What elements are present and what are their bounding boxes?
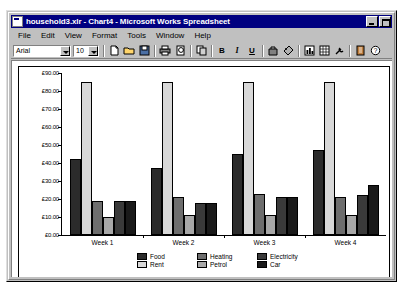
open-icon[interactable] (122, 44, 136, 58)
legend-entry-petrol[interactable]: Petrol (197, 261, 257, 268)
chevron-down-icon[interactable] (88, 46, 98, 56)
legend-entry-car[interactable]: Car (257, 261, 317, 268)
minimize-button[interactable] (366, 16, 378, 27)
bar-petrol[interactable] (184, 215, 195, 235)
print-preview-icon[interactable] (173, 44, 187, 58)
spreadsheet-icon[interactable] (317, 44, 331, 58)
y-axis-tick (58, 73, 61, 74)
bold-icon[interactable]: B (215, 44, 229, 58)
y-axis-tick-label: £20.00 (42, 196, 59, 202)
menu-bar: File Edit View Format Tools Window Help (11, 29, 392, 42)
save-icon[interactable] (137, 44, 151, 58)
toolbar-separator (154, 45, 156, 57)
y-axis-tick (58, 145, 61, 146)
maximize-button[interactable] (379, 16, 391, 27)
bar-rent[interactable] (81, 82, 92, 235)
x-axis-tick-label: Week 4 (335, 239, 357, 246)
menu-item-file[interactable]: File (13, 30, 36, 41)
bar-food[interactable] (70, 159, 81, 235)
menu-item-view[interactable]: View (60, 30, 87, 41)
menu-item-window[interactable]: Window (151, 30, 189, 41)
bar-rent[interactable] (243, 82, 254, 235)
legend-entry-rent[interactable]: Rent (137, 261, 197, 268)
bar-food[interactable] (313, 150, 324, 235)
y-axis-tick-label: £10.00 (42, 214, 59, 220)
bar-petrol[interactable] (265, 215, 276, 235)
legend-swatch (257, 261, 267, 268)
font-name-combobox[interactable]: Arial (13, 45, 71, 57)
insert-chart-icon[interactable] (302, 44, 316, 58)
menu-item-edit[interactable]: Edit (36, 30, 60, 41)
bar-heating[interactable] (335, 197, 346, 235)
chevron-down-icon[interactable] (60, 46, 70, 56)
window-title: household3.xlr - Chart4 - Microsoft Work… (26, 17, 365, 26)
bar-car[interactable] (287, 197, 298, 235)
legend-entry-electricity[interactable]: Electricity (257, 253, 317, 260)
bar-food[interactable] (232, 154, 243, 235)
application-window: household3.xlr - Chart4 - Microsoft Work… (6, 10, 397, 282)
underline-icon[interactable]: U (245, 44, 259, 58)
application-icon (12, 16, 23, 27)
bar-food[interactable] (151, 168, 162, 235)
chart-plot-wrapper: £90.00£80.00£70.00£60.00£50.00£40.00£30.… (19, 67, 389, 277)
bar-electricity[interactable] (195, 203, 206, 235)
legend-label: Electricity (270, 253, 298, 260)
bar-group (143, 73, 224, 235)
x-axis-tick (305, 235, 306, 238)
svg-text:?: ? (373, 47, 377, 54)
document-area[interactable]: £90.00£80.00£70.00£60.00£50.00£40.00£30.… (11, 60, 392, 277)
wrench-icon[interactable] (332, 44, 346, 58)
legend-label: Food (150, 253, 165, 260)
bar-heating[interactable] (173, 197, 184, 235)
legend-swatch (197, 253, 207, 260)
address-book-icon[interactable] (353, 44, 367, 58)
toolbar-separator (190, 45, 192, 57)
y-axis-tick-label: £30.00 (42, 178, 59, 184)
y-axis-tick (58, 217, 61, 218)
chart-type-icon[interactable] (266, 44, 280, 58)
bar-electricity[interactable] (357, 195, 368, 235)
chart-legend: FoodHeatingElectricityRentPetrolCar (137, 253, 317, 268)
italic-icon[interactable]: I (230, 44, 244, 58)
bar-petrol[interactable] (103, 217, 114, 235)
new-icon[interactable] (107, 44, 121, 58)
y-axis-tick-label: £80.00 (42, 88, 59, 94)
legend-entry-food[interactable]: Food (137, 253, 197, 260)
menu-item-format[interactable]: Format (87, 30, 122, 41)
legend-label: Petrol (210, 261, 227, 268)
y-axis-tick (58, 91, 61, 92)
menu-item-help[interactable]: Help (189, 30, 215, 41)
bar-rent[interactable] (324, 82, 335, 235)
bar-car[interactable] (125, 201, 136, 235)
y-axis-tick-label: £0.00 (45, 232, 59, 238)
bar-group (305, 73, 386, 235)
font-name-value: Arial (14, 47, 60, 54)
bar-petrol[interactable] (346, 215, 357, 235)
fill-color-icon[interactable] (281, 44, 295, 58)
bar-heating[interactable] (254, 194, 265, 235)
bar-electricity[interactable] (276, 197, 287, 235)
chart-object[interactable]: £90.00£80.00£70.00£60.00£50.00£40.00£30.… (18, 66, 390, 277)
bar-electricity[interactable] (114, 201, 125, 235)
bar-heating[interactable] (92, 201, 103, 235)
title-bar[interactable]: household3.xlr - Chart4 - Microsoft Work… (11, 15, 392, 28)
legend-entry-heating[interactable]: Heating (197, 253, 257, 260)
copy-icon[interactable] (194, 44, 208, 58)
bar-rent[interactable] (162, 82, 173, 235)
y-axis-tick (58, 163, 61, 164)
y-axis-tick-label: £90.00 (42, 70, 59, 76)
x-axis-tick (143, 235, 144, 238)
legend-row: RentPetrolCar (137, 261, 317, 268)
y-axis-tick-label: £70.00 (42, 106, 59, 112)
bar-car[interactable] (206, 203, 217, 235)
legend-label: Heating (210, 253, 232, 260)
bar-car[interactable] (368, 185, 379, 235)
print-icon[interactable] (158, 44, 172, 58)
toolbar-separator (298, 45, 300, 57)
toolbar-separator (103, 45, 105, 57)
help-icon[interactable]: ? (368, 44, 382, 58)
x-axis-tick-label: Week 3 (254, 239, 276, 246)
menu-item-tools[interactable]: Tools (122, 30, 151, 41)
y-axis-tick-label: £60.00 (42, 124, 59, 130)
font-size-combobox[interactable]: 10 (73, 45, 99, 57)
